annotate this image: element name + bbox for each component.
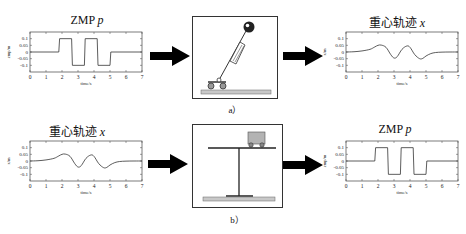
zmp-plot-b-title: ZMP p	[340, 122, 450, 137]
title-var: p	[98, 13, 104, 27]
svg-text:5: 5	[109, 74, 112, 80]
caption-b: b）	[224, 213, 250, 226]
svg-text:-0.05: -0.05	[18, 56, 29, 61]
svg-text:0: 0	[26, 159, 29, 164]
svg-text:-0.05: -0.05	[334, 165, 345, 170]
svg-text:0.05: 0.05	[19, 152, 28, 157]
cart-pendulum-illustration	[193, 17, 277, 98]
svg-text:0: 0	[26, 50, 29, 55]
title-main: ZMP	[70, 13, 94, 27]
svg-text:3: 3	[393, 74, 396, 80]
svg-text:-0.1: -0.1	[336, 63, 344, 68]
svg-text:time/s: time/s	[81, 190, 92, 195]
svg-text:-0.1: -0.1	[20, 172, 28, 177]
svg-text:0: 0	[342, 159, 345, 164]
svg-text:x/m: x/m	[322, 48, 327, 56]
svg-text:zmp/m: zmp/m	[322, 154, 327, 167]
svg-text:zmp/m: zmp/m	[6, 45, 11, 58]
arrow-icon	[148, 44, 192, 68]
svg-text:x/m: x/m	[6, 157, 11, 165]
svg-text:1: 1	[361, 74, 364, 80]
svg-text:1: 1	[45, 74, 48, 80]
svg-text:6: 6	[125, 74, 128, 80]
zmp-plot-a-title: ZMP p	[32, 13, 142, 28]
svg-text:3: 3	[77, 183, 80, 189]
inverted-pendulum-model-box	[192, 16, 278, 99]
title-var: p	[406, 122, 412, 136]
title-main: ZMP	[378, 122, 402, 136]
svg-text:1: 1	[361, 183, 364, 189]
svg-text:-0.05: -0.05	[18, 165, 29, 170]
svg-text:6: 6	[441, 74, 444, 80]
svg-text:0.1: 0.1	[338, 36, 345, 41]
caption-a: a）	[222, 103, 248, 116]
svg-text:5: 5	[109, 183, 112, 189]
svg-text:0: 0	[342, 50, 345, 55]
svg-text:0: 0	[345, 74, 348, 80]
svg-text:7: 7	[141, 74, 144, 80]
svg-text:time/s: time/s	[397, 81, 408, 86]
com-plot-b: 012345670.10.050-0.05-0.1time/sx/m	[0, 137, 150, 197]
svg-text:7: 7	[457, 74, 460, 80]
svg-text:4: 4	[409, 183, 412, 189]
svg-text:0.05: 0.05	[335, 43, 344, 48]
svg-text:2: 2	[377, 183, 380, 189]
svg-text:1: 1	[45, 183, 48, 189]
svg-text:-0.1: -0.1	[336, 172, 344, 177]
svg-text:0.05: 0.05	[19, 43, 28, 48]
svg-text:6: 6	[125, 183, 128, 189]
svg-text:-0.05: -0.05	[334, 56, 345, 61]
cart-table-illustration	[193, 125, 282, 207]
svg-text:0: 0	[29, 74, 32, 80]
svg-text:2: 2	[377, 74, 380, 80]
cart-table-model-box	[192, 124, 283, 208]
svg-text:4: 4	[409, 74, 412, 80]
svg-text:0.1: 0.1	[22, 36, 29, 41]
svg-text:0: 0	[29, 183, 32, 189]
svg-text:2: 2	[61, 74, 64, 80]
svg-text:3: 3	[393, 183, 396, 189]
svg-text:5: 5	[425, 74, 428, 80]
svg-text:0.05: 0.05	[335, 152, 344, 157]
svg-text:2: 2	[61, 183, 64, 189]
svg-text:time/s: time/s	[81, 81, 92, 86]
svg-text:0.1: 0.1	[22, 145, 29, 150]
svg-text:4: 4	[93, 183, 96, 189]
svg-text:3: 3	[77, 74, 80, 80]
svg-text:-0.1: -0.1	[20, 63, 28, 68]
zmp-plot-a: 012345670.10.050-0.05-0.1time/szmp/m	[0, 28, 150, 88]
svg-text:6: 6	[441, 183, 444, 189]
svg-text:7: 7	[141, 183, 144, 189]
svg-text:4: 4	[93, 74, 96, 80]
svg-text:0.1: 0.1	[338, 145, 345, 150]
svg-text:time/s: time/s	[397, 190, 408, 195]
svg-text:0: 0	[345, 183, 348, 189]
zmp-plot-b: 012345670.10.050-0.05-0.1time/szmp/m	[316, 137, 466, 197]
svg-text:7: 7	[457, 183, 460, 189]
arrow-icon	[146, 152, 190, 176]
com-plot-a: 012345670.10.050-0.05-0.1time/sx/m	[316, 28, 466, 88]
svg-text:5: 5	[425, 183, 428, 189]
